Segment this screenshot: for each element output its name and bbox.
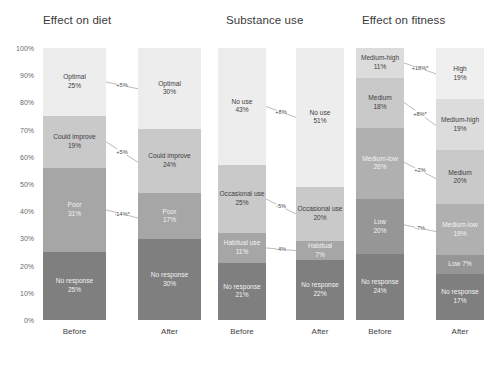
- bar-segment-label: No response 21%: [222, 283, 261, 300]
- bar-segment[interactable]: Poor 17%: [138, 193, 201, 239]
- bar-segment-label: High 19%: [452, 65, 468, 82]
- bar-segment[interactable]: Occasional use 25%: [218, 165, 266, 233]
- stacked-bar-before-substance[interactable]: No use 43%Occasional use 25%Habitual use…: [218, 48, 266, 320]
- change-label: -14%*: [114, 211, 129, 217]
- bar-segment[interactable]: No use 51%: [296, 48, 344, 187]
- bar-segment-label: No response 17%: [440, 288, 479, 305]
- panel-title-effect-on-diet: Effect on diet: [43, 14, 111, 26]
- bar-stack: No use 43%Occasional use 25%Habitual use…: [218, 48, 266, 320]
- stacked-bar-before-fitness[interactable]: Medium-high 11%Medium 18%Medium-low 26%L…: [356, 48, 404, 320]
- bar-segment-label: Habitual use 11%: [223, 239, 262, 256]
- bar-segment[interactable]: Medium-low 19%: [436, 204, 484, 255]
- change-label: +18%*: [412, 65, 429, 71]
- change-label: +2%: [414, 167, 425, 173]
- bar-segment[interactable]: No response 21%: [218, 263, 266, 320]
- bar-segment[interactable]: Habitual 7%: [296, 241, 344, 260]
- change-label: +5%: [116, 82, 127, 88]
- bar-segment-label: Occasional use 20%: [296, 205, 343, 222]
- change-label: -7%: [415, 225, 425, 231]
- bar-segment-label: Medium 20%: [447, 169, 472, 186]
- bar-segment-label: No response 22%: [300, 281, 339, 298]
- bar-stack: High 19%Medium-high 19%Medium 20%Medium-…: [436, 48, 484, 320]
- bar-segment-label: Low 20%: [372, 218, 387, 235]
- bar-segment[interactable]: Poor 31%: [43, 168, 106, 252]
- bar-segment-label: Medium-low 19%: [441, 221, 479, 238]
- figure-canvas: 100%90%80%70%60%50%40%30%20%10%0% Effect…: [0, 0, 494, 375]
- bar-segment-label: No use 43%: [231, 98, 254, 115]
- change-label: +8%*: [413, 111, 427, 117]
- bar-segment-label: Medium-high 11%: [360, 54, 400, 71]
- stacked-bar-after-fitness[interactable]: High 19%Medium-high 19%Medium 20%Medium-…: [436, 48, 484, 320]
- bar-segment[interactable]: No use 43%: [218, 48, 266, 165]
- bar-segment-label: Occasional use 25%: [218, 190, 265, 207]
- bar-segment[interactable]: Occasional use 20%: [296, 187, 344, 241]
- stacked-bar-after-substance[interactable]: No use 51%Occasional use 20%Habitual 7%N…: [296, 48, 344, 320]
- bar-segment-label: No use 51%: [309, 109, 332, 126]
- bar-segment-label: Could improve 19%: [52, 133, 97, 150]
- bar-segment-label: Medium 18%: [367, 94, 392, 111]
- bar-segment-label: No response 24%: [360, 278, 399, 295]
- bar-segment[interactable]: High 19%: [436, 48, 484, 99]
- bar-segment-label: Poor 31%: [67, 201, 83, 218]
- bar-segment[interactable]: No response 17%: [436, 274, 484, 320]
- change-label: -4%: [276, 246, 286, 252]
- bar-segment[interactable]: Could improve 24%: [138, 129, 201, 194]
- change-label: +5%: [116, 149, 127, 155]
- bar-segment[interactable]: Medium-low 26%: [356, 128, 404, 199]
- bar-segment[interactable]: Habitual use 11%: [218, 233, 266, 263]
- bar-segment[interactable]: Medium 20%: [436, 150, 484, 204]
- stacked-bar-before-diet[interactable]: Optimal 25%Could improve 19%Poor 31%No r…: [43, 48, 106, 320]
- stacked-bar-after-diet[interactable]: Optimal 30%Could improve 24%Poor 17%No r…: [138, 48, 201, 320]
- category-label-before-substance: Before: [218, 327, 266, 336]
- change-label: -5%: [276, 203, 286, 209]
- bar-segment[interactable]: Optimal 25%: [43, 48, 106, 116]
- bar-stack: Medium-high 11%Medium 18%Medium-low 26%L…: [356, 48, 404, 320]
- bar-segment[interactable]: No response 25%: [43, 252, 106, 320]
- bar-segment[interactable]: Low 20%: [356, 199, 404, 254]
- bar-segment[interactable]: No response 24%: [356, 254, 404, 320]
- bar-segment-label: Poor 17%: [162, 208, 178, 225]
- bar-segment[interactable]: Medium 18%: [356, 78, 404, 127]
- bar-segment[interactable]: Medium-high 19%: [436, 99, 484, 150]
- bar-segment[interactable]: Could improve 19%: [43, 116, 106, 168]
- bar-segment-label: No response 25%: [55, 277, 94, 294]
- panel-title-substance-use: Substance use: [226, 14, 303, 26]
- category-label-after-substance: After: [296, 327, 344, 336]
- category-label-after-fitness: After: [436, 327, 484, 336]
- bar-segment[interactable]: No response 22%: [296, 260, 344, 320]
- bar-stack: No use 51%Occasional use 20%Habitual 7%N…: [296, 48, 344, 320]
- bar-segment-label: Low 7%: [447, 260, 472, 269]
- chart-panel-effect-on-fitness: Effect on fitness Medium-high 11%Medium …: [350, 0, 494, 375]
- category-label-after-diet: After: [138, 327, 201, 336]
- panel-title-effect-on-fitness: Effect on fitness: [362, 14, 445, 26]
- bar-segment[interactable]: Low 7%: [436, 255, 484, 274]
- category-label-before-diet: Before: [43, 327, 106, 336]
- bar-segment-label: Medium-high 19%: [440, 116, 480, 133]
- bar-segment-label: Optimal 25%: [62, 73, 87, 90]
- chart-panel-substance-use: Substance use No use 43%Occasional use 2…: [212, 0, 350, 375]
- chart-panel-effect-on-diet: Effect on diet Optimal 25%Could improve …: [0, 0, 212, 375]
- bar-segment-label: Optimal 30%: [157, 80, 182, 97]
- bar-segment[interactable]: No response 30%: [138, 239, 201, 320]
- bar-stack: Optimal 25%Could improve 19%Poor 31%No r…: [43, 48, 106, 320]
- bar-segment[interactable]: Medium-high 11%: [356, 48, 404, 78]
- bar-segment-label: Could improve 24%: [147, 152, 192, 169]
- category-label-before-fitness: Before: [356, 327, 404, 336]
- bar-segment-label: Habitual 7%: [307, 242, 333, 259]
- change-label: +8%: [275, 109, 286, 115]
- bar-segment[interactable]: Optimal 30%: [138, 48, 201, 129]
- bar-stack: Optimal 30%Could improve 24%Poor 17%No r…: [138, 48, 201, 320]
- bar-segment-label: Medium-low 26%: [361, 155, 399, 172]
- bar-segment-label: No response 30%: [150, 271, 189, 288]
